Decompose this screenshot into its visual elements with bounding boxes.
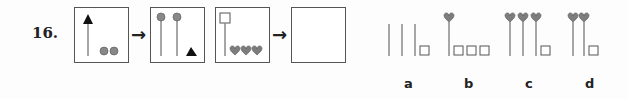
option-b-figure	[444, 13, 489, 56]
option-d-figure	[568, 13, 598, 56]
figures-layer	[0, 0, 628, 99]
option-c-label[interactable]: c	[525, 76, 533, 91]
option-d-label[interactable]: d	[585, 76, 594, 91]
box1-figures	[83, 14, 118, 56]
box3-figures	[220, 13, 262, 56]
option-b-label[interactable]: b	[464, 76, 473, 91]
option-c-figure	[505, 13, 550, 56]
option-a-label[interactable]: a	[404, 76, 413, 91]
option-a-figure	[389, 24, 429, 56]
box2-figures	[157, 13, 197, 56]
